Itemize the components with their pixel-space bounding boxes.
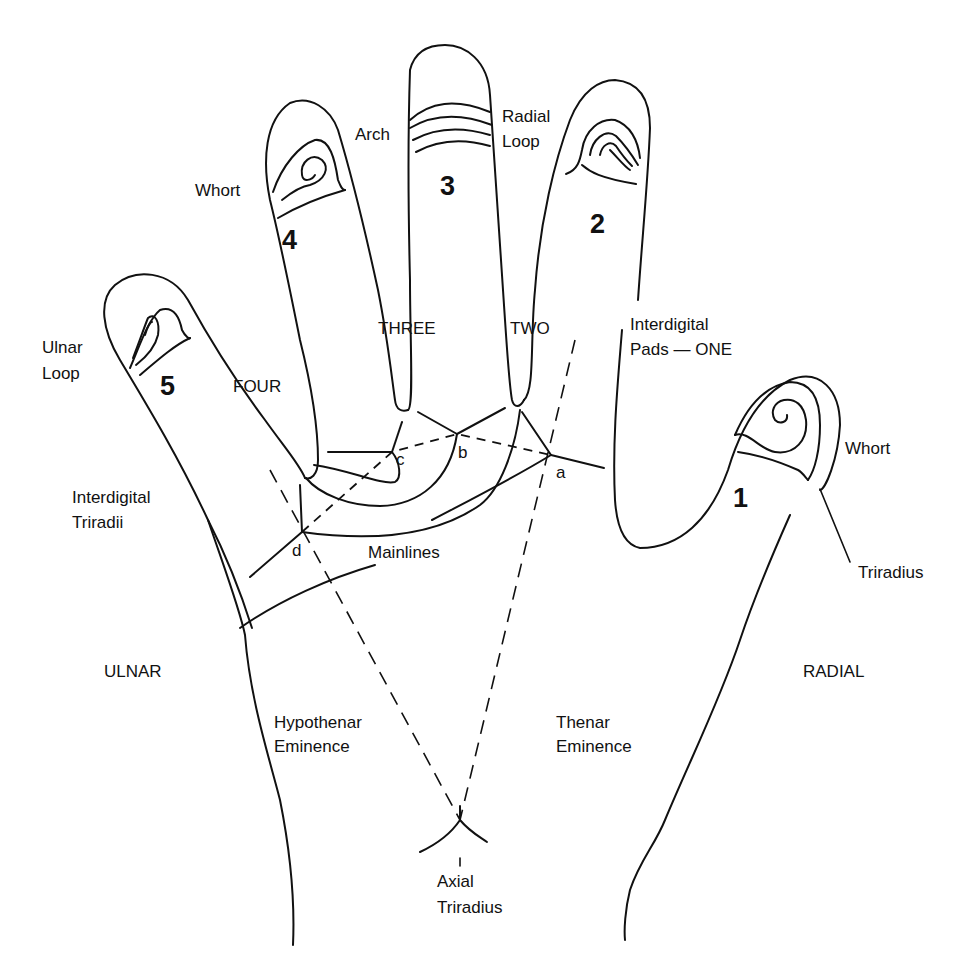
digit-number-1: 1 bbox=[733, 483, 748, 513]
label-radial-loop-2: Loop bbox=[502, 132, 540, 151]
label-radial: RADIAL bbox=[803, 662, 864, 681]
label-pad-three: THREE bbox=[378, 319, 436, 338]
digit-number-2: 2 bbox=[590, 209, 605, 239]
digit-number-4: 4 bbox=[282, 225, 297, 255]
labels: Whort Arch Radial Loop Ulnar Loop 3 4 2 … bbox=[42, 107, 924, 917]
label-interdigital-triradii-2: Triradii bbox=[72, 513, 123, 532]
hand-outline bbox=[104, 45, 840, 945]
finger-3-outline bbox=[408, 45, 524, 410]
label-triradius-c: c bbox=[396, 450, 405, 469]
whorl-pattern-icon-finger-4 bbox=[273, 140, 345, 218]
finger-4-outline bbox=[266, 101, 408, 479]
label-ulnar-loop-2: Loop bbox=[42, 364, 80, 383]
arch-pattern-icon bbox=[410, 104, 492, 152]
palm-thumb-edge bbox=[625, 515, 790, 940]
label-ulnar: ULNAR bbox=[104, 662, 162, 681]
ulnar-loop-pattern-icon bbox=[130, 309, 190, 375]
label-hypothenar-1: Hypothenar bbox=[274, 713, 362, 732]
triradius-pointer-line bbox=[820, 489, 850, 562]
radial-loop-pattern-icon bbox=[566, 120, 640, 184]
label-pad-four: FOUR bbox=[233, 377, 281, 396]
digit-number-3: 3 bbox=[440, 171, 455, 201]
axial-triradius-icon bbox=[420, 806, 487, 866]
label-whort-finger-4: Whort bbox=[195, 181, 241, 200]
label-axial-2: Triradius bbox=[437, 898, 503, 917]
label-ulnar-loop-1: Ulnar bbox=[42, 338, 83, 357]
digit-number-5: 5 bbox=[160, 371, 175, 401]
palm-diagram: Whort Arch Radial Loop Ulnar Loop 3 4 2 … bbox=[0, 0, 962, 977]
palm-ulnar-edge bbox=[208, 520, 293, 945]
label-axial-1: Axial bbox=[437, 872, 474, 891]
label-thenar-2: Eminence bbox=[556, 737, 632, 756]
label-hypothenar-2: Eminence bbox=[274, 737, 350, 756]
label-triradius-b: b bbox=[458, 443, 467, 462]
palm-radial-edge bbox=[614, 330, 840, 548]
label-whort-thumb: Whort bbox=[845, 439, 891, 458]
finger-5-outline bbox=[104, 274, 305, 628]
label-triradius: Triradius bbox=[858, 563, 924, 582]
label-pads-one-2: Pads — ONE bbox=[630, 340, 732, 359]
whorl-pattern-icon-thumb bbox=[735, 382, 820, 480]
label-mainlines: Mainlines bbox=[368, 543, 440, 562]
palm-mainlines bbox=[240, 408, 604, 628]
label-arch: Arch bbox=[355, 125, 390, 144]
label-radial-loop-1: Radial bbox=[502, 107, 550, 126]
label-triradius-a: a bbox=[556, 463, 566, 482]
label-thenar-1: Thenar bbox=[556, 713, 610, 732]
label-pad-two: TWO bbox=[510, 319, 550, 338]
label-interdigital-triradii-1: Interdigital bbox=[72, 488, 150, 507]
label-pads-one-1: Interdigital bbox=[630, 315, 708, 334]
label-triradius-d: d bbox=[292, 541, 301, 560]
